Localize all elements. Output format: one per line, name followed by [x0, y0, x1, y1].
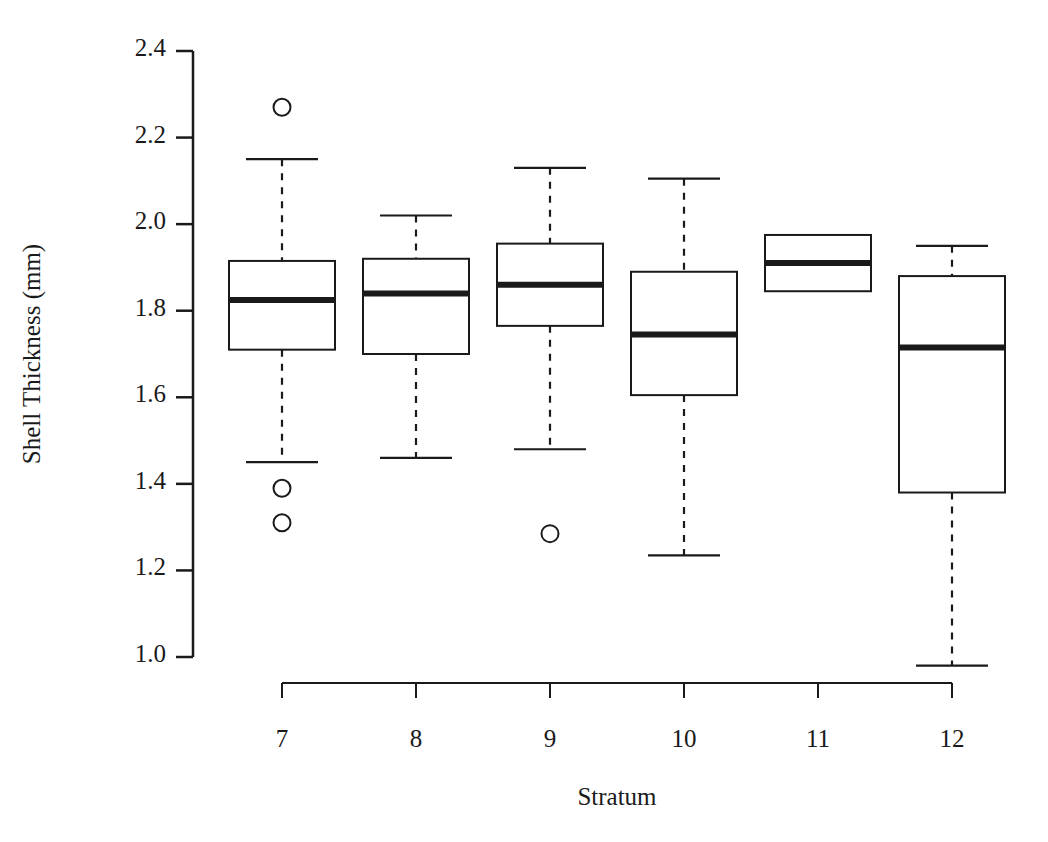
boxplot-figure: Shell Thickness (mm) 2.4 2.2 2.0 1.8 1.6…	[0, 0, 1048, 842]
plot-canvas	[0, 0, 1048, 842]
